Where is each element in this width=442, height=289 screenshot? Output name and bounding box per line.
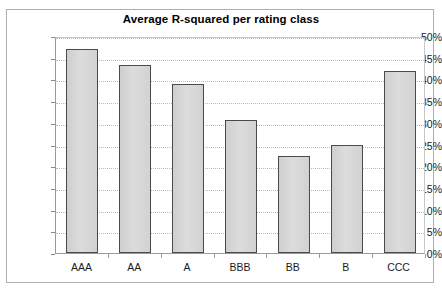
x-axis-tick-label: BBB bbox=[214, 261, 267, 273]
gridline bbox=[56, 103, 424, 104]
bar-aaa bbox=[66, 49, 98, 253]
chart-title: Average R-squared per rating class bbox=[0, 13, 442, 25]
x-axis-tick-label: AA bbox=[108, 261, 161, 273]
x-axis-tick-mark bbox=[161, 254, 162, 258]
bar-bbb bbox=[225, 120, 257, 253]
x-axis-tick-label: A bbox=[161, 261, 214, 273]
x-axis-tick-label: AAA bbox=[55, 261, 108, 273]
x-axis-tick-label: BB bbox=[266, 261, 319, 273]
gridline bbox=[56, 81, 424, 82]
gridline bbox=[56, 38, 424, 39]
bar-ccc bbox=[384, 71, 416, 253]
x-axis-tick-label: CCC bbox=[372, 261, 425, 273]
x-axis-tick-mark bbox=[266, 254, 267, 258]
x-axis-tick-mark bbox=[214, 254, 215, 258]
bar-a bbox=[172, 84, 204, 253]
chart-container: Average R-squared per rating class 0%5%1… bbox=[0, 0, 442, 289]
bar-aa bbox=[119, 65, 151, 253]
gridline bbox=[56, 60, 424, 61]
plot-area bbox=[55, 37, 425, 254]
x-axis-tick-label: B bbox=[319, 261, 372, 273]
bar-bb bbox=[278, 156, 310, 253]
y-axis-tick-mark bbox=[51, 254, 55, 255]
x-axis-tick-mark bbox=[372, 254, 373, 258]
x-axis-tick-mark bbox=[425, 254, 426, 258]
bar-b bbox=[331, 145, 363, 254]
x-axis-tick-mark bbox=[108, 254, 109, 258]
x-axis-tick-mark bbox=[319, 254, 320, 258]
